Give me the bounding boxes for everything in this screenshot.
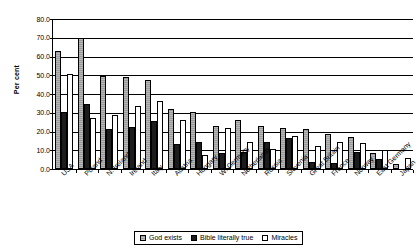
chart-legend: God existsBible literally trueMiracles xyxy=(134,231,303,245)
y-tick-label: 10.0 xyxy=(24,147,50,154)
y-tick-label: 30.0 xyxy=(24,109,50,116)
legend-label: Miracles xyxy=(271,234,297,242)
legend-label: God exists xyxy=(149,234,182,242)
y-tick-label: 0.0 xyxy=(24,166,50,173)
legend-item-miracles[interactable]: Miracles xyxy=(262,234,297,242)
y-tick-label: 60.0 xyxy=(24,53,50,60)
y-tick-label: 20.0 xyxy=(24,128,50,135)
y-axis-tick xyxy=(50,169,53,170)
legend-label: Bible literally true xyxy=(200,234,253,242)
y-tick-label: 80.0 xyxy=(24,16,50,23)
y-axis-title: Per cent xyxy=(13,50,20,110)
plot-area xyxy=(52,19,413,170)
legend-swatch-icon xyxy=(262,235,268,241)
y-tick-label: 40.0 xyxy=(24,91,50,98)
bar-miracles-usa xyxy=(67,74,73,169)
legend-swatch-icon xyxy=(191,235,197,241)
bars-layer xyxy=(53,19,413,169)
legend-item-god-exists[interactable]: God exists xyxy=(140,234,182,242)
legend-item-bible-literally-true[interactable]: Bible literally true xyxy=(191,234,253,242)
x-axis-tick xyxy=(413,170,414,173)
y-tick-label: 70.0 xyxy=(24,34,50,41)
legend-swatch-icon xyxy=(140,235,146,241)
bar-miracles-italy xyxy=(157,101,163,169)
y-axis-tick-labels: 0.010.020.030.040.050.060.070.080.0 xyxy=(24,14,50,170)
y-tick-label: 50.0 xyxy=(24,72,50,79)
x-axis-category-labels: USAPolandN. IrelandIrelandItalyAustriaHu… xyxy=(52,172,412,232)
